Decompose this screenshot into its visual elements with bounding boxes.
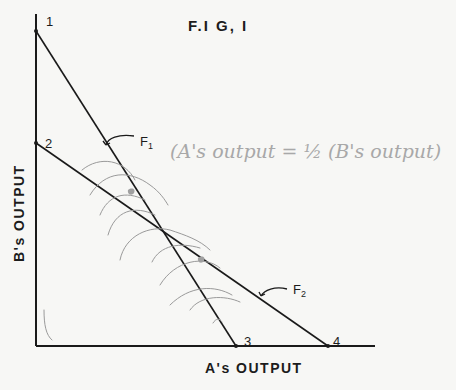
point-4-label: 4 bbox=[333, 334, 340, 349]
f2-leader-arrow bbox=[259, 288, 287, 296]
f1-label: F1 bbox=[140, 134, 153, 151]
line-f2 bbox=[36, 143, 328, 346]
point-3-dot bbox=[234, 344, 238, 348]
x-axis-label: A's OUTPUT bbox=[205, 360, 303, 376]
figure-title: F.I G, I bbox=[188, 17, 248, 34]
f1-leader-arrow bbox=[103, 135, 134, 145]
point-1-dot bbox=[34, 29, 38, 33]
point-3-label: 3 bbox=[244, 334, 251, 349]
point-2-dot bbox=[34, 141, 38, 145]
y-axis-label: B's OUTPUT bbox=[11, 164, 27, 262]
figure-canvas: F.I G, I 1 2 3 4 F1 F2 A's OUTPUT B's OU… bbox=[0, 0, 456, 390]
f2-label: F2 bbox=[293, 282, 306, 299]
pencil-annotation: (A's output = ½ (B's output) bbox=[170, 140, 441, 162]
pencil-curves bbox=[44, 161, 240, 340]
pencil-point-upper bbox=[128, 189, 135, 195]
point-4-dot bbox=[326, 344, 330, 348]
point-2-label: 2 bbox=[45, 136, 52, 151]
pencil-point-lower bbox=[198, 257, 205, 263]
point-1-label: 1 bbox=[46, 14, 53, 29]
